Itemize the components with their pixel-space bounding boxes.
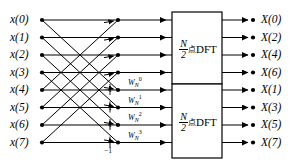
output-label-X0: X(0) bbox=[261, 14, 281, 26]
input-label-x3: x(3) bbox=[10, 67, 29, 79]
twiddle-label-1: WN1 bbox=[128, 94, 142, 106]
input-label-x0: x(0) bbox=[10, 14, 29, 26]
output-node-4 bbox=[251, 88, 255, 92]
twiddle-sub-2: N bbox=[135, 117, 139, 123]
output-nodes bbox=[251, 18, 255, 145]
input-node-5 bbox=[40, 105, 44, 109]
dft-box-top-label: N 2 点DFT bbox=[176, 38, 220, 60]
twiddle-base-2: W bbox=[128, 113, 135, 122]
output-node-1 bbox=[251, 35, 255, 39]
output-label-X5: X(5) bbox=[261, 119, 281, 131]
output-node-3 bbox=[251, 70, 255, 74]
input-node-0 bbox=[40, 18, 44, 22]
input-label-x4: x(4) bbox=[10, 84, 29, 96]
input-label-x2: x(2) bbox=[10, 49, 29, 61]
dft-bottom-cjk: 点 bbox=[188, 119, 196, 127]
dft-bottom-fraction: N 2 bbox=[179, 112, 188, 133]
twiddle-sup-0: 0 bbox=[139, 76, 142, 82]
twiddle-sup-1: 1 bbox=[139, 94, 142, 100]
input-label-x1: x(1) bbox=[10, 32, 29, 44]
output-label-X6: X(6) bbox=[261, 67, 281, 79]
twiddle-sub-1: N bbox=[135, 100, 139, 106]
mid-to-box-branches bbox=[118, 20, 172, 143]
input-node-6 bbox=[40, 123, 44, 127]
minus-one-label-3: −1 bbox=[104, 147, 112, 155]
input-node-2 bbox=[40, 53, 44, 57]
twiddle-sup-3: 3 bbox=[139, 129, 142, 135]
input-node-4 bbox=[40, 88, 44, 92]
twiddle-base-0: W bbox=[128, 78, 135, 87]
output-node-0 bbox=[251, 18, 255, 22]
input-label-x5: x(5) bbox=[10, 102, 29, 114]
twiddle-sub-3: N bbox=[135, 135, 139, 141]
input-node-7 bbox=[40, 140, 44, 144]
input-node-3 bbox=[40, 70, 44, 74]
output-label-X2: X(2) bbox=[261, 32, 281, 44]
twiddle-label-2: WN2 bbox=[128, 111, 142, 123]
input-label-x6: x(6) bbox=[10, 119, 29, 131]
output-node-5 bbox=[251, 105, 255, 109]
output-label-X1: X(1) bbox=[261, 84, 281, 96]
twiddle-base-3: W bbox=[128, 130, 135, 139]
input-node-1 bbox=[40, 35, 44, 39]
minus-one-label-0: −1 bbox=[104, 86, 112, 94]
output-node-7 bbox=[251, 140, 255, 144]
minus-one-label-2: −1 bbox=[104, 121, 112, 129]
dft-bottom-word: DFT bbox=[196, 117, 217, 128]
input-label-x7: x(7) bbox=[10, 137, 29, 149]
dft-bottom-denominator: 2 bbox=[179, 123, 188, 133]
twiddle-sup-2: 2 bbox=[139, 111, 142, 117]
output-label-X4: X(4) bbox=[261, 49, 281, 61]
mid-nodes bbox=[116, 18, 120, 145]
dft-box-bottom-label: N 2 点DFT bbox=[176, 111, 220, 133]
twiddle-base-1: W bbox=[128, 95, 135, 104]
input-nodes bbox=[40, 18, 44, 145]
minus-one-label-1: −1 bbox=[104, 104, 112, 112]
twiddle-label-3: WN3 bbox=[128, 129, 142, 141]
box-to-output-branches bbox=[222, 20, 248, 143]
output-label-X3: X(3) bbox=[261, 102, 281, 114]
output-label-X7: X(7) bbox=[261, 137, 281, 149]
fft-signal-flow-graph bbox=[0, 0, 295, 166]
dft-top-fraction: N 2 bbox=[179, 39, 188, 60]
figure-canvas: x(0) x(1) x(2) x(3) x(4) x(5) x(6) x(7) … bbox=[0, 0, 295, 166]
dft-top-word: DFT bbox=[196, 44, 217, 55]
twiddle-label-0: WN0 bbox=[128, 76, 142, 88]
dft-top-cjk: 点 bbox=[188, 46, 196, 54]
output-node-6 bbox=[251, 123, 255, 127]
output-node-2 bbox=[251, 53, 255, 57]
twiddle-sub-0: N bbox=[135, 82, 139, 88]
dft-top-denominator: 2 bbox=[179, 50, 188, 60]
